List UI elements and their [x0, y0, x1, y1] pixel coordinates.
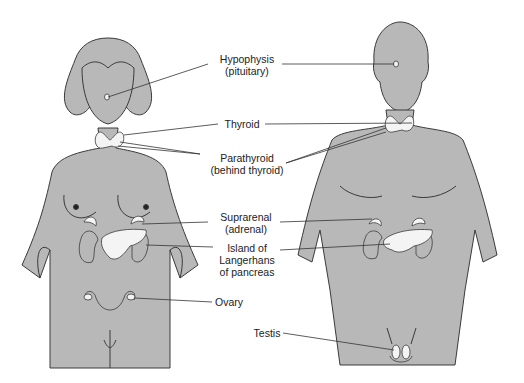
label-ovary: Ovary	[212, 296, 246, 308]
male-figure	[298, 22, 497, 365]
male-testis-left	[392, 345, 400, 359]
label-parathyroid: Parathyroid (behind thyroid)	[205, 152, 289, 176]
label-islands-line2: Langerhans	[216, 254, 278, 266]
female-ovary-right	[127, 294, 135, 300]
label-ovary-line1: Ovary	[212, 296, 246, 308]
label-suprarenal-line2: (adrenal)	[214, 223, 278, 235]
label-islands-line1: Island of	[216, 242, 278, 254]
label-islands-line3: of pancreas	[216, 266, 278, 278]
label-testis-line1: Testis	[250, 327, 284, 339]
label-thyroid: Thyroid	[220, 118, 264, 130]
label-thyroid-line1: Thyroid	[220, 118, 264, 130]
label-hypophysis-line2: (pituitary)	[214, 65, 280, 77]
label-suprarenal-line1: Suprarenal	[214, 211, 278, 223]
female-figure	[22, 38, 198, 368]
label-suprarenal: Suprarenal (adrenal)	[214, 211, 278, 235]
label-testis: Testis	[250, 327, 284, 339]
label-hypophysis-line1: Hypophysis	[214, 53, 280, 65]
male-pituitary	[394, 61, 399, 67]
label-parathyroid-line1: Parathyroid	[205, 152, 289, 164]
female-ovary-left	[84, 294, 92, 300]
label-hypophysis: Hypophysis (pituitary)	[214, 53, 280, 77]
label-parathyroid-line2: (behind thyroid)	[205, 164, 289, 176]
male-testis-right	[402, 345, 410, 359]
label-islands: Island of Langerhans of pancreas	[216, 242, 278, 278]
